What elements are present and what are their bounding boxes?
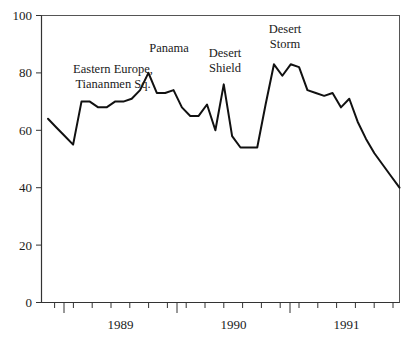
y-tick-label-0: 0 — [26, 295, 33, 310]
annotation-panama-line1: Panama — [149, 41, 189, 55]
chart-canvas: 100 80 60 40 20 0 — [0, 0, 417, 343]
y-tick-label-60: 60 — [19, 123, 32, 138]
annotation-eastern-europe-line2: Tiananmen Sq. — [75, 77, 150, 91]
y-tick-label-100: 100 — [13, 8, 33, 23]
x-axis-labels: 1989 1990 1991 — [108, 317, 360, 332]
annotation-desert-shield-line2: Shield — [209, 61, 242, 75]
annotation-desert-storm-line1: Desert — [269, 22, 302, 36]
annotation-panama: Panama — [149, 41, 189, 55]
x-axis-minor-ticks — [55, 303, 393, 309]
annotation-desert-storm: Desert Storm — [269, 22, 302, 51]
x-tick-label-1989: 1989 — [108, 317, 134, 332]
x-tick-label-1990: 1990 — [221, 317, 247, 332]
annotation-eastern-europe: Eastern Europe, Tiananmen Sq. — [73, 62, 153, 91]
annotation-desert-storm-line2: Storm — [270, 37, 301, 51]
y-tick-label-20: 20 — [19, 238, 32, 253]
x-axis-major-ticks — [64, 303, 290, 314]
annotation-eastern-europe-line1: Eastern Europe, — [73, 62, 153, 76]
x-tick-label-1991: 1991 — [334, 317, 360, 332]
y-tick-label-40: 40 — [19, 180, 32, 195]
annotation-desert-shield: Desert Shield — [209, 46, 242, 75]
y-axis-ticks: 100 80 60 40 20 0 — [13, 8, 42, 310]
annotation-desert-shield-line1: Desert — [209, 46, 242, 60]
approval-rating-chart: 100 80 60 40 20 0 — [0, 0, 417, 343]
y-tick-label-80: 80 — [19, 65, 32, 80]
